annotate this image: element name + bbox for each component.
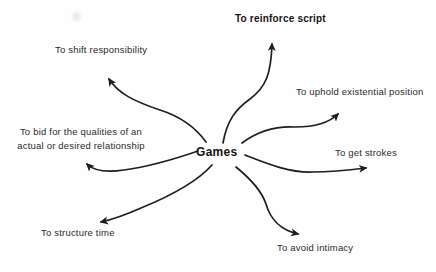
- mindmap-canvas: To reinforce script To shift responsibil…: [0, 0, 436, 272]
- arrow-to-reinforce-script: [223, 44, 272, 143]
- node-structure-time: To structure time: [41, 226, 115, 240]
- arrow-to-uphold-existential-position: [242, 114, 338, 143]
- node-avoid-intimacy: To avoid intimacy: [277, 241, 353, 255]
- node-reinforce-script: To reinforce script: [235, 12, 326, 26]
- node-uphold-existential-position: To uphold existential position: [296, 85, 423, 99]
- center-node-games: Games: [196, 145, 238, 159]
- node-bid-line1: To bid for the qualities of an: [20, 126, 142, 137]
- node-get-strokes: To get strokes: [335, 146, 397, 160]
- arrow-to-avoid-intimacy: [236, 167, 298, 234]
- node-bid-for-qualities: To bid for the qualities of an actual or…: [15, 125, 147, 153]
- node-bid-line2: actual or desired relationship: [17, 140, 144, 151]
- arrow-to-bid-for-qualities: [87, 151, 198, 171]
- arrow-to-structure-time: [101, 165, 212, 222]
- node-shift-responsibility: To shift responsibility: [55, 43, 147, 57]
